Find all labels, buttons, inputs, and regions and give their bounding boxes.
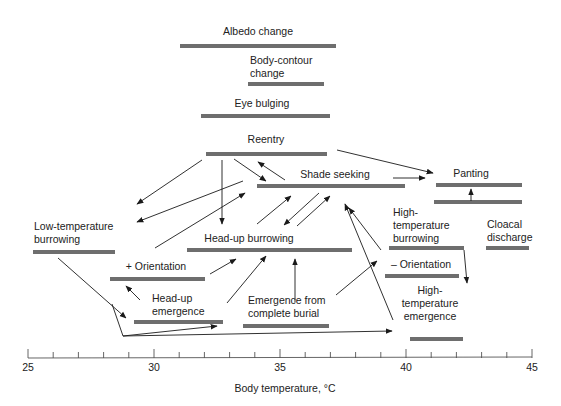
arrow-shade-seeking-to-low-temp-burrowing [137,181,243,222]
label-emergence-complete-burial: complete burial [248,307,319,319]
label-high-temp-emergence: High- [417,284,443,296]
label-high-temp-burrowing: temperature [393,219,450,231]
label-shade-seeking: Shade seeking [300,168,370,180]
label-head-up-emergence: Head-up [152,292,192,304]
label-minus-orientation: – Orientation [391,258,451,270]
label-eye-bulging: Eye bulging [235,97,290,109]
arrow-shade-seeking-to-reentry [258,162,285,180]
tick-label: 45 [526,361,538,373]
arrow-emergence-complete-burial-to-high-temp-burrowing [336,261,377,295]
temperature-axis: 2530354045 [22,349,538,373]
label-body-contour: Body-contour [250,54,313,66]
label-high-temp-burrowing: High- [393,206,419,218]
label-reentry: Reentry [248,133,286,145]
label-emergence-complete-burial: Emergence from [248,294,326,306]
tick-label: 30 [148,361,160,373]
label-low-temp-burrowing: Low-temperature [34,220,114,232]
arrow-low-temp-burrowing-to-head-up-emergence [58,258,126,318]
tick-label: 40 [400,361,412,373]
arrow-reentry-to-low-temp-burrowing [137,160,202,204]
tick-label: 35 [274,361,286,373]
arrow-head-up-burrowing-to-shade-seeking [297,196,330,226]
arrow-head-up-emergence-to-plus-orientation [126,286,140,300]
tick-label: 25 [22,361,34,373]
arrow-reentry-to-shade-seeking [234,159,266,181]
arrow-high-temp-burrowing-to-high-temp-emergence [464,250,467,283]
label-panting: Panting [453,167,489,179]
label-high-temp-burrowing: burrowing [393,232,439,244]
arrow-plus-orientation-to-head-up-burrowing [210,259,236,274]
label-high-temp-emergence: temperature [402,297,459,309]
thermoregulation-behavior-diagram: Albedo changeBody-contourchangeEye bulgi… [0,0,561,406]
label-body-contour: change [250,67,285,79]
arrow-minus-orientation-to-shade-seeking [349,208,381,250]
axis-title: Body temperature, °C [234,382,335,394]
label-high-temp-emergence: emergence [404,310,457,322]
arrow-head-up-burrowing-to-shade-seeking [257,196,291,224]
label-cloacal-discharge: Cloacal [487,218,522,230]
arrow-high-temp-emergence-to-shade-seeking [345,204,393,320]
label-cloacal-discharge: discharge [487,231,533,243]
label-plus-orientation: + Orientation [126,260,187,272]
label-head-up-emergence: emergence [152,305,205,317]
label-low-temp-burrowing: burrowing [34,233,80,245]
label-albedo: Albedo change [223,25,293,37]
label-head-up-burrowing: Head-up burrowing [204,232,293,244]
